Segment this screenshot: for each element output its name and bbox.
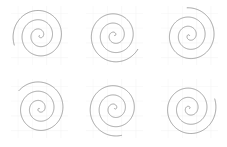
panel-row-bottom: [0, 73, 227, 146]
spiral-plot-1: [75, 0, 150, 73]
spiral-panel-0: [0, 0, 75, 73]
spiral-panel-3: [0, 73, 75, 146]
spiral-panel-5: [150, 73, 225, 146]
spiral-panel-4: [75, 73, 150, 146]
spiral-plot-4: [75, 73, 150, 146]
spiral-panel-2: [150, 0, 225, 73]
spiral-plot-5: [150, 73, 225, 146]
spiral-plot-2: [150, 0, 225, 73]
spiral-plot-3: [0, 73, 75, 146]
panel-row-top: [0, 0, 227, 73]
spiral-panel-1: [75, 0, 150, 73]
spiral-plot-0: [0, 0, 75, 73]
spiral-figure: [0, 0, 227, 147]
